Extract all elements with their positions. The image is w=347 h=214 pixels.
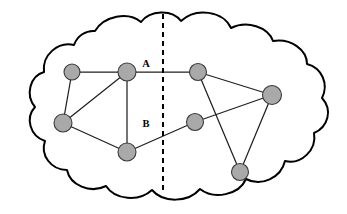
network-diagram-figure: A B	[0, 0, 347, 214]
graph-node-n8[interactable]	[232, 164, 249, 181]
graph-node-n1[interactable]	[64, 64, 80, 80]
network-diagram-canvas: A B	[0, 0, 347, 214]
network-cloud-outline	[30, 12, 328, 199]
graph-node-n5[interactable]	[190, 64, 207, 81]
graph-node-n7[interactable]	[187, 114, 204, 131]
edge-label-b: B	[142, 118, 149, 129]
graph-node-n3[interactable]	[54, 114, 72, 132]
graph-node-n6[interactable]	[263, 86, 282, 105]
edge-label-a: A	[142, 58, 150, 69]
graph-node-n2[interactable]	[118, 63, 136, 81]
graph-node-n4[interactable]	[118, 143, 136, 161]
